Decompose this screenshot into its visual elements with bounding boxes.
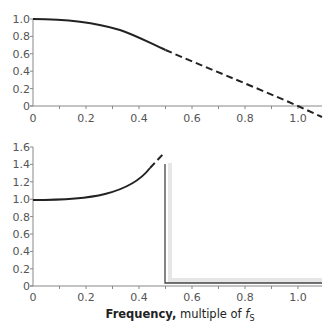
x-tick-label: 0.4 <box>130 112 148 125</box>
y-tick-label: 0.2 <box>13 83 31 96</box>
x-tick-label: 0.4 <box>130 291 148 304</box>
y-tick-label: 0.2 <box>13 263 31 276</box>
x-tick-label: 0.8 <box>236 112 254 125</box>
top-solid-curve <box>33 19 166 50</box>
bottom-dashed-curve <box>150 152 165 168</box>
x-axis-label: Frequency, multiple of fS <box>106 307 255 323</box>
bottom-y-tick-labels: 1.6 1.4 1.2 1.0 0.8 0.6 0.4 0.2 0 <box>13 141 31 293</box>
y-tick-label: 0.6 <box>13 48 31 61</box>
x-tick-label: 0.8 <box>236 291 254 304</box>
x-tick-label: 0.2 <box>77 291 95 304</box>
top-chart: 1.0 0.8 0.6 0.4 0.2 0 0 0.2 0.4 0.6 0.8 <box>13 13 323 125</box>
bottom-x-tick-labels: 0 0.2 0.4 0.6 0.8 1.0 <box>30 291 307 304</box>
x-tick-label: 0.6 <box>183 112 201 125</box>
bottom-chart: 1.6 1.4 1.2 1.0 0.8 0.6 0.4 0.2 0 0 0.2 <box>13 141 323 323</box>
x-tick-label: 0 <box>30 112 37 125</box>
bottom-solid-curve <box>33 168 150 200</box>
x-tick-label: 0.6 <box>183 291 201 304</box>
x-tick-label: 0 <box>30 291 37 304</box>
y-tick-label: 1.0 <box>13 13 31 26</box>
x-tick-label: 1.0 <box>289 112 307 125</box>
y-tick-label: 1.4 <box>13 158 31 171</box>
filter-cutoff-line <box>165 164 322 283</box>
chart-figure: 1.0 0.8 0.6 0.4 0.2 0 0 0.2 0.4 0.6 0.8 <box>0 0 333 331</box>
y-tick-label: 1.2 <box>13 176 31 189</box>
top-dashed-curve <box>166 50 323 117</box>
x-tick-label: 0.2 <box>77 112 95 125</box>
y-tick-label: 1.0 <box>13 193 31 206</box>
y-tick-label: 0.8 <box>13 30 31 43</box>
top-x-tick-labels: 0 0.2 0.4 0.6 0.8 1.0 <box>30 112 307 125</box>
filter-shading <box>168 163 322 283</box>
y-tick-label: 0.8 <box>13 211 31 224</box>
x-tick-label: 1.0 <box>289 291 307 304</box>
y-tick-label: 0.4 <box>13 65 31 78</box>
y-tick-label: 1.6 <box>13 141 31 154</box>
y-tick-label: 0.6 <box>13 228 31 241</box>
top-y-tick-labels: 1.0 0.8 0.6 0.4 0.2 0 <box>13 13 31 113</box>
y-tick-label: 0.4 <box>13 245 31 258</box>
